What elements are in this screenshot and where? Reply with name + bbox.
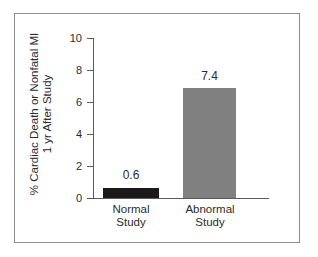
y-tick-mark-6 bbox=[87, 102, 93, 103]
x-axis-label-normal-line2: Study bbox=[91, 216, 171, 229]
y-tick-mark-10 bbox=[87, 38, 93, 39]
y-tick-mark-2 bbox=[87, 166, 93, 167]
y-axis-title-line2: 1 yr After Study bbox=[41, 75, 54, 154]
bar-normal-study bbox=[103, 188, 159, 198]
x-axis-label-abnormal-line1: Abnormal bbox=[170, 203, 250, 216]
x-axis-line bbox=[93, 198, 269, 199]
y-axis-title: % Cardiac Death or Nonfatal MI 1 yr Afte… bbox=[28, 32, 56, 196]
x-axis-label-abnormal-study: Abnormal Study bbox=[170, 203, 250, 229]
plot-area: 0 2 4 6 8 10 0.6 7.4 Normal Study Abnorm… bbox=[0, 0, 318, 257]
bar-abnormal-study bbox=[183, 88, 236, 198]
bar-value-abnormal-study: 7.4 bbox=[183, 70, 236, 82]
x-axis-label-normal-study: Normal Study bbox=[91, 203, 171, 229]
y-tick-mark-4 bbox=[87, 134, 93, 135]
chart-figure: 0 2 4 6 8 10 0.6 7.4 Normal Study Abnorm… bbox=[0, 0, 318, 257]
y-axis-title-line1: % Cardiac Death or Nonfatal MI bbox=[28, 33, 41, 195]
x-axis-label-abnormal-line2: Study bbox=[170, 216, 250, 229]
y-tick-mark-0 bbox=[87, 198, 93, 199]
y-tick-mark-8 bbox=[87, 70, 93, 71]
x-axis-label-normal-line1: Normal bbox=[91, 203, 171, 216]
bar-value-normal-study: 0.6 bbox=[103, 169, 159, 181]
y-axis-line bbox=[93, 38, 94, 199]
